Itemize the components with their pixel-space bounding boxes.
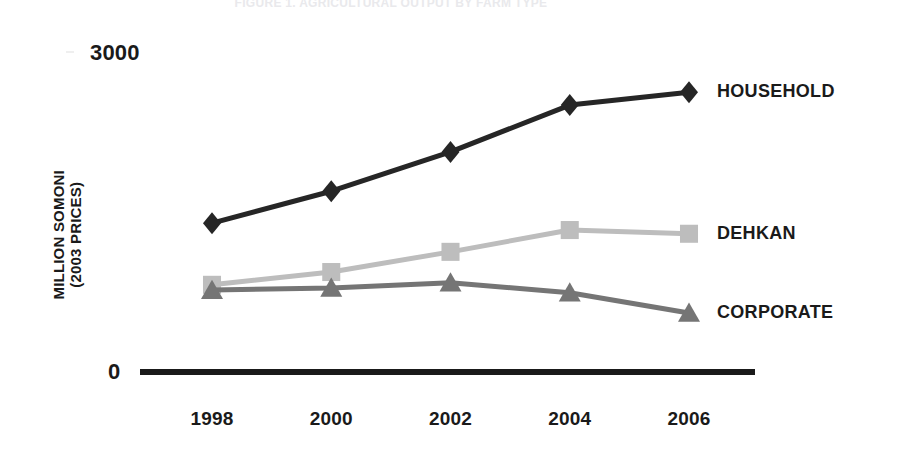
- series-label-household: HOUSEHOLD: [717, 81, 835, 102]
- series-label-dehkan: DEHKAN: [717, 223, 796, 244]
- series-label-corporate: CORPORATE: [717, 302, 833, 323]
- x-axis-label-2000: 2000: [286, 408, 376, 430]
- series-household: [203, 81, 698, 234]
- marker-diamond-2000: [322, 180, 340, 202]
- x-axis-labels: 19982000200220042006: [0, 408, 912, 438]
- marker-square-2004: [561, 221, 579, 239]
- x-axis-label-2002: 2002: [406, 408, 496, 430]
- x-axis-label-2006: 2006: [644, 408, 734, 430]
- x-axis-label-1998: 1998: [167, 408, 257, 430]
- marker-diamond-1998: [203, 212, 221, 234]
- marker-diamond-2002: [441, 141, 459, 163]
- marker-square-2006: [680, 225, 698, 243]
- x-axis-label-2004: 2004: [525, 408, 615, 430]
- marker-diamond-2004: [561, 94, 579, 116]
- marker-square-2002: [441, 243, 459, 261]
- marker-diamond-2006: [680, 81, 698, 103]
- chart-figure: FIGURE 1. AGRICULTURAL OUTPUT BY FARM TY…: [0, 0, 912, 457]
